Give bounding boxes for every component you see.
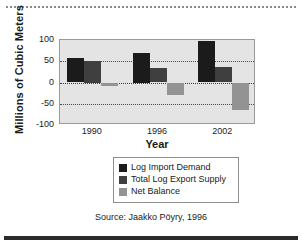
- bar-1996-series-1: [150, 68, 167, 82]
- x-tick-1990: 1990: [72, 126, 112, 136]
- legend-label-1: Total Log Export Supply: [131, 174, 226, 185]
- x-axis-title: Year: [59, 138, 255, 150]
- bottom-divider: [4, 236, 298, 240]
- y-tick--50: -50: [30, 98, 54, 108]
- legend-item-1: Total Log Export Supply: [119, 174, 233, 185]
- legend-swatch-icon-0: [119, 164, 127, 172]
- plot-area-wrapper: [59, 39, 255, 124]
- x-tick-1996: 1996: [137, 126, 177, 136]
- bar-1990-series-1: [84, 61, 101, 82]
- y-tick-0: 0: [30, 77, 54, 87]
- y-axis-title: Millions of Cubic Meters: [13, 10, 25, 134]
- bar-2002-series-2: [232, 83, 249, 111]
- legend-item-2: Net Balance: [119, 186, 233, 197]
- legend-swatch-icon-1: [119, 176, 127, 184]
- y-tick-50: 50: [30, 55, 54, 65]
- gridline--50: [60, 104, 254, 105]
- y-tick-100: 100: [30, 34, 54, 44]
- y-tick--100: -100: [30, 119, 54, 129]
- source-caption: Source: Jaakko Pöyry, 1996: [0, 212, 302, 222]
- legend-item-0: Log Import Demand: [119, 162, 233, 173]
- chart-legend: Log Import DemandTotal Log Export Supply…: [113, 157, 239, 203]
- bar-1996-series-0: [133, 53, 150, 83]
- gridline-0: [60, 83, 254, 84]
- legend-label-2: Net Balance: [131, 186, 180, 197]
- bar-1990-series-0: [67, 58, 84, 82]
- chart-figure: Millions of Cubic Meters 100500-50-100 1…: [0, 0, 302, 247]
- legend-swatch-icon-2: [119, 188, 127, 196]
- bar-1996-series-2: [167, 83, 184, 96]
- top-divider: [6, 6, 296, 8]
- legend-label-0: Log Import Demand: [131, 162, 211, 173]
- plot-area: [59, 39, 255, 124]
- x-tick-2002: 2002: [202, 126, 242, 136]
- bar-2002-series-1: [215, 67, 232, 83]
- bar-1990-series-2: [101, 83, 118, 86]
- bar-2002-series-0: [198, 41, 215, 82]
